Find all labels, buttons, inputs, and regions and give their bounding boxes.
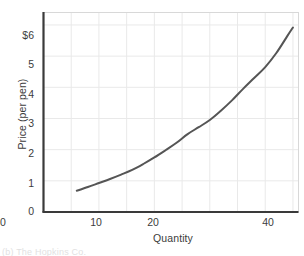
supply-curve-line (77, 27, 293, 190)
horizontal-gridlines (44, 25, 299, 181)
vertical-gridlines (71, 13, 293, 213)
plot-area (0, 0, 304, 256)
plot-frame (44, 13, 299, 213)
supply-curve-figure: Price (per pen) $6 5 4 3 2 1 0 10 20 30 … (0, 0, 304, 256)
caption-fragment: (b) The Hopkins Co. (2, 247, 86, 256)
